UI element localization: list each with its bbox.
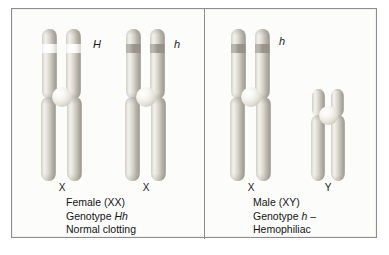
allele-band-light <box>42 44 57 53</box>
hemophilia-inheritance-figure: H X h X Female (XX) Genotype Hh Norm <box>0 0 389 255</box>
chromosome-x-h-recessive <box>122 29 170 181</box>
chromatid-arm-lower-right <box>151 97 166 181</box>
allele-band-dark <box>126 44 141 53</box>
caption-male: Male (XY) Genotype h – Hemophiliac <box>253 196 316 237</box>
centromere <box>319 106 338 125</box>
caption-female-line-3: Normal clotting <box>66 223 136 237</box>
panel-female: H X h X Female (XX) Genotype Hh Norm <box>12 9 204 239</box>
caption-female-genotype-prefix: Genotype <box>66 210 114 222</box>
allele-label-h-recessive: h <box>174 38 180 50</box>
chromatid-arm-lower-left <box>311 115 325 181</box>
caption-male-genotype-suffix: – <box>307 210 316 222</box>
caption-male-line-2: Genotype h – <box>253 210 316 224</box>
centromere <box>52 87 72 107</box>
caption-male-line-1: Male (XY) <box>253 196 316 210</box>
chromosome-x-h-recessive-male <box>227 29 275 181</box>
centromere <box>241 87 261 107</box>
caption-male-line-3: Hemophiliac <box>253 223 316 237</box>
allele-band-dark <box>150 44 165 53</box>
caption-female: Female (XX) Genotype Hh Normal clotting <box>66 196 136 237</box>
caption-female-line-1: Female (XX) <box>66 196 136 210</box>
chromatid-arm-lower-right <box>331 115 345 181</box>
allele-band-dark <box>255 44 270 53</box>
chromatid-arm-lower-right <box>67 97 82 181</box>
chromatid-arm-lower-left <box>230 97 245 181</box>
allele-label-h-recessive-male: h <box>279 35 285 47</box>
sex-label-x-male: X <box>241 182 261 193</box>
chromosome-x-h-dominant <box>38 29 86 181</box>
caption-female-line-2: Genotype Hh <box>66 210 136 224</box>
allele-band-dark <box>231 44 246 53</box>
chromatid-arm-lower-left <box>125 97 140 181</box>
sex-label-x-2: X <box>136 182 156 193</box>
figure-frame: H X h X Female (XX) Genotype Hh Norm <box>11 8 377 238</box>
centromere <box>136 87 156 107</box>
chromatid-arm-lower-right <box>256 97 271 181</box>
chromatid-arm-lower-left <box>41 97 56 181</box>
panel-male: h X Y Male (XY) Genotype h – Hemophiliac <box>205 9 378 239</box>
allele-label-h-dominant: H <box>93 38 101 50</box>
caption-female-genotype-value: Hh <box>114 210 127 222</box>
caption-male-genotype-prefix: Genotype <box>253 210 301 222</box>
chromosome-y <box>304 89 352 181</box>
sex-label-x-1: X <box>52 182 72 193</box>
allele-band-light <box>66 44 81 53</box>
sex-label-y: Y <box>318 182 338 193</box>
